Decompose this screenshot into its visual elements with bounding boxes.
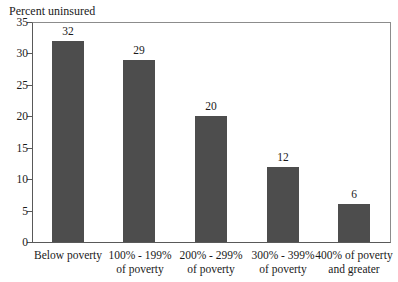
y-axis-tick-label: 10 (0, 172, 28, 186)
y-axis-tick-label: 0 (0, 235, 28, 249)
y-axis-tick-label: 20 (0, 109, 28, 123)
y-axis-tick-label: 30 (0, 46, 28, 60)
y-axis-tick-label: 35 (0, 15, 28, 29)
bar-100-199-of-poverty (123, 60, 155, 242)
y-axis-tick-label: 5 (0, 204, 28, 218)
bar-value-label: 29 (115, 43, 163, 57)
bar-chart-canvas: Percent uninsured 05101520253035 3229201… (0, 0, 398, 282)
y-axis-tick-label: 25 (0, 78, 28, 92)
bar-below-poverty (52, 41, 84, 242)
y-axis-tick-label: 15 (0, 141, 28, 155)
x-axis-label-400-of-poverty-and-greater: 400% of poverty and greater (312, 249, 396, 276)
bar-300-399-of-poverty (267, 167, 299, 242)
bar-value-label: 12 (259, 150, 307, 164)
bar-value-label: 6 (330, 187, 378, 201)
bar-value-label: 32 (44, 24, 92, 38)
bar-200-299-of-poverty (195, 116, 227, 242)
bar-400-of-poverty-and-greater (338, 204, 370, 242)
bar-value-label: 20 (187, 99, 235, 113)
